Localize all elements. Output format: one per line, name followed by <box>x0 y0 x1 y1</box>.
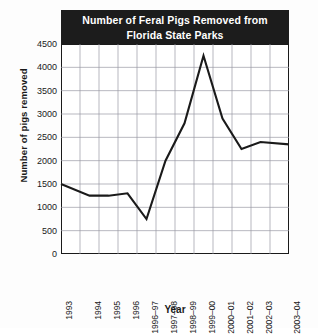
chart-title-line-1: Number of Feral Pigs Removed from <box>82 13 267 27</box>
y-tick-label: 1000 <box>37 202 57 212</box>
y-tick-label: 3500 <box>37 86 57 96</box>
y-tick-label: 2500 <box>37 132 57 142</box>
y-axis-title: Number of pigs removed <box>18 51 29 201</box>
y-tick-label: 4500 <box>37 39 57 49</box>
y-tick-label: 1500 <box>37 179 57 189</box>
y-tick-label: 500 <box>42 226 57 236</box>
y-tick-label: 4000 <box>37 62 57 72</box>
y-axis-tick-labels: 050010001500200025003000350040004500 <box>4 44 57 254</box>
x-axis-tick-labels: 19931994199519961996–971997–981998–99199… <box>61 256 289 304</box>
plot-area <box>61 44 289 254</box>
x-tick-label: 2003–04 <box>292 301 302 334</box>
chart-title-line-2: Florida State Parks <box>82 28 267 42</box>
x-axis-title: Year <box>61 304 289 315</box>
y-tick-label: 3000 <box>37 109 57 119</box>
chart-title: Number of Feral Pigs Removed from Florid… <box>61 10 289 44</box>
y-tick-label: 0 <box>52 249 57 259</box>
y-tick-label: 2000 <box>37 156 57 166</box>
